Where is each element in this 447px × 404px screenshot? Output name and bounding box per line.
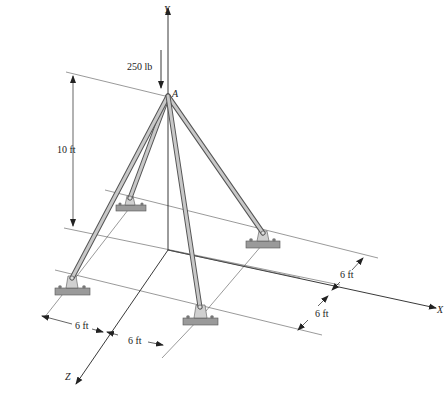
- z-dimension-upper-label: 6 ft: [340, 269, 354, 280]
- point-a-label: A: [171, 88, 179, 99]
- x-dimensions: [42, 316, 163, 345]
- x-axis-label: X: [436, 304, 444, 315]
- load-label: 250 lb: [127, 61, 152, 72]
- z-axis-label: Z: [65, 371, 71, 382]
- tetrapod-truss-diagram: Y 250 lb A 10 ft X Z 6 ft 6 ft 6 ft 6 ft: [0, 0, 447, 404]
- height-dimension-label: 10 ft: [57, 144, 76, 155]
- y-axis-label: Y: [164, 4, 171, 15]
- z-dimension-lower-label: 6 ft: [315, 308, 329, 319]
- z-axis: [76, 250, 168, 384]
- truss-members: [70, 96, 265, 309]
- x-dimension-left-label: 6 ft: [75, 320, 89, 331]
- x-dimension-right-label: 6 ft: [128, 335, 142, 346]
